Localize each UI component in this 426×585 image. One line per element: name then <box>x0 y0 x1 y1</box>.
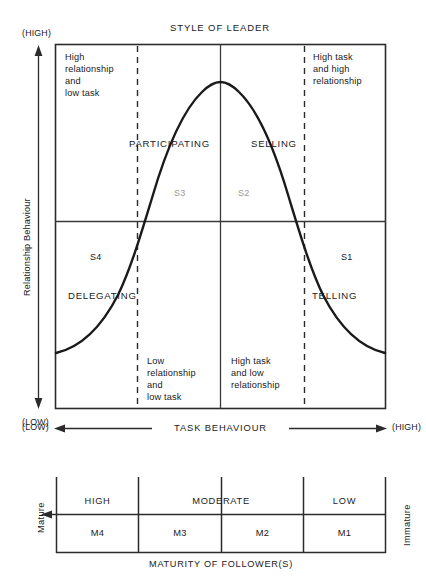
quadrant-descriptor-bottom-left-line4: low task <box>147 392 181 403</box>
style-code-s4: S4 <box>90 252 102 263</box>
x-axis-high-label: (HIGH) <box>392 422 421 433</box>
chart-title: STYLE OF LEADER <box>55 22 385 34</box>
situational-leadership-diagram: STYLE OF LEADER (HIGH) (LOW) Relationshi… <box>0 0 426 585</box>
quadrant-descriptor-top-right-line3: relationship <box>313 76 362 87</box>
x-axis-arrowhead-right <box>376 425 387 433</box>
quadrant-descriptor-bottom-right-line1: High task <box>231 356 271 367</box>
style-label-selling: SELLING <box>251 138 297 150</box>
maturity-right-axis-label: Immature <box>402 504 413 546</box>
quadrant-descriptor-bottom-left-line3: and <box>147 380 163 391</box>
quadrant-descriptor-bottom-right-line2: and low <box>231 368 264 379</box>
maturity-band-moderate: MODERATE <box>139 496 303 507</box>
style-label-telling: TELLING <box>312 290 357 302</box>
quadrant-descriptor-top-left-line2: relationship <box>65 64 114 75</box>
style-label-participating: PARTICIPATING <box>129 138 210 150</box>
x-axis-label: TASK BEHAVIOUR <box>150 422 291 433</box>
maturity-band-high: HIGH <box>57 496 138 507</box>
quadrant-descriptor-top-right-line1: High task <box>313 52 353 63</box>
style-code-s2: S2 <box>238 188 250 199</box>
quadrant-descriptor-top-right-line2: and high <box>313 64 349 75</box>
maturity-band-low: LOW <box>304 496 385 507</box>
quadrant-descriptor-top-left-line4: low task <box>65 88 99 99</box>
y-axis-high-label: (HIGH) <box>22 28 51 39</box>
quadrant-descriptor-top-left-line3: and <box>65 76 81 87</box>
maturity-level-m3: M3 <box>139 528 221 539</box>
maturity-level-m1: M1 <box>304 528 385 539</box>
style-code-s1: S1 <box>341 252 353 263</box>
y-axis-arrowhead-top <box>35 45 43 56</box>
maturity-left-axis-label: Mature <box>36 502 47 533</box>
y-axis-arrowhead-bottom <box>35 398 43 409</box>
maturity-caption: MATURITY OF FOLLOWER(S) <box>56 559 386 570</box>
style-code-s3: S3 <box>174 188 186 199</box>
quadrant-descriptor-bottom-right-line3: relationship <box>231 380 280 391</box>
x-axis-arrowhead-left <box>54 425 65 433</box>
quadrant-descriptor-bottom-left-line2: relationship <box>147 368 196 379</box>
y-axis-label: Relationship Behaviour <box>22 198 33 296</box>
maturity-level-m4: M4 <box>57 528 138 539</box>
quadrant-descriptor-top-left-line1: High <box>65 52 85 63</box>
maturity-level-m2: M2 <box>222 528 303 539</box>
x-axis-low-label: (LOW) <box>22 422 49 433</box>
style-label-delegating: DELEGATING <box>68 290 137 302</box>
quadrant-descriptor-bottom-left-line1: Low <box>147 356 164 367</box>
